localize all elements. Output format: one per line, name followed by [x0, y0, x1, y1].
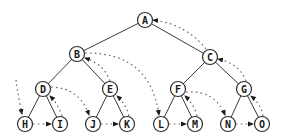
node-label: K	[124, 119, 130, 130]
node-label: D	[40, 84, 46, 95]
traversal-arrow-F-to-N	[186, 92, 225, 115]
node-label: A	[142, 15, 148, 26]
traversal-arrow-E-to-B	[85, 58, 110, 81]
tree-node-B: B	[70, 47, 85, 62]
tree-node-A: A	[138, 13, 153, 28]
tree-node-K: K	[120, 117, 135, 132]
tree-node-I: I	[53, 117, 68, 132]
tree-edges	[25, 20, 262, 124]
node-label: I	[57, 119, 63, 130]
tree-node-E: E	[103, 82, 118, 97]
tree-node-N: N	[221, 117, 236, 132]
node-label: O	[259, 119, 265, 130]
tree-node-C: C	[203, 50, 218, 65]
node-label: M	[192, 119, 198, 130]
node-label: G	[241, 84, 247, 95]
traversal-arrow-C-to-A	[153, 20, 206, 49]
traversal-arrow-B-to-L	[85, 53, 159, 115]
node-label: F	[175, 84, 181, 95]
tree-node-L: L	[154, 117, 169, 132]
node-label: L	[158, 119, 164, 130]
node-label: J	[90, 119, 96, 130]
node-label: C	[207, 52, 213, 63]
tree-node-G: G	[237, 82, 252, 97]
traversal-arrow-start-to-H	[16, 80, 22, 114]
tree-node-J: J	[86, 117, 101, 132]
node-label: B	[74, 49, 80, 60]
node-label: N	[225, 119, 231, 130]
tree-edge-A-C	[145, 20, 210, 57]
tree-node-O: O	[255, 117, 270, 132]
node-label: H	[22, 119, 28, 130]
tree-edge-A-B	[77, 20, 145, 54]
tree-node-M: M	[188, 117, 203, 132]
tree-node-F: F	[171, 82, 186, 97]
tree-node-D: D	[36, 82, 51, 97]
postorder-tree-diagram: ABCDEFGHIJKLMNO	[0, 0, 285, 140]
node-label: E	[107, 84, 113, 95]
tree-node-H: H	[18, 117, 33, 132]
traversal-arrow-D-to-J	[51, 87, 89, 115]
